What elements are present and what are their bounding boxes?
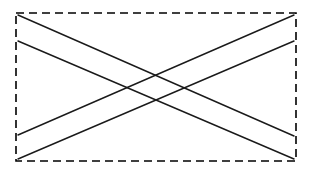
figure-container [0,0,312,172]
band-descending [18,15,294,159]
band-ascending [18,15,294,159]
crossed-bands-figure [0,0,312,172]
dashed-rectangle-border [16,13,296,161]
